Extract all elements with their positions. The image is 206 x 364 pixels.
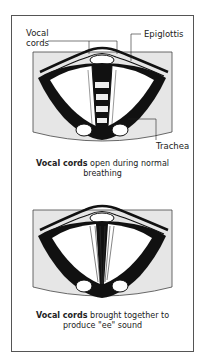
- caption-closed-bold: Vocal cords: [36, 311, 88, 320]
- larynx-closed-illustration: [33, 206, 172, 298]
- larynx-open-illustration: [33, 34, 172, 141]
- label-epiglottis: Epiglottis: [144, 29, 184, 39]
- caption-open-line2: breathing: [11, 169, 194, 179]
- caption-closed-line2: produce "ee" sound: [11, 321, 194, 331]
- caption-open-bold: Vocal cords: [36, 159, 88, 168]
- caption-closed-rest: brought together to: [88, 311, 170, 320]
- label-vocal-cords: Vocal cords: [26, 28, 49, 48]
- label-vocal-line2: cords: [26, 38, 49, 48]
- caption-open-rest: open during normal: [88, 159, 169, 168]
- label-trachea: Trachea: [156, 141, 189, 151]
- caption-closed: Vocal cords brought together to produce …: [11, 311, 194, 331]
- caption-open: Vocal cords open during normal breathing: [11, 159, 194, 179]
- larynx-illustrations: [0, 0, 206, 364]
- label-vocal-line1: Vocal: [26, 28, 49, 38]
